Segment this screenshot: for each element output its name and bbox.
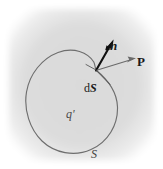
physics-diagram-svg [0,0,163,169]
background-panel [9,9,154,160]
surface-element-label: dS [84,82,97,94]
figure-container: n P dS q' S [0,0,163,169]
surface-label: S [91,148,97,160]
normal-vector-label: n [110,39,117,52]
polarization-vector-label: P [137,55,145,68]
surface-element-label-vector: S [90,81,97,95]
bound-charge-label: q' [66,108,75,120]
